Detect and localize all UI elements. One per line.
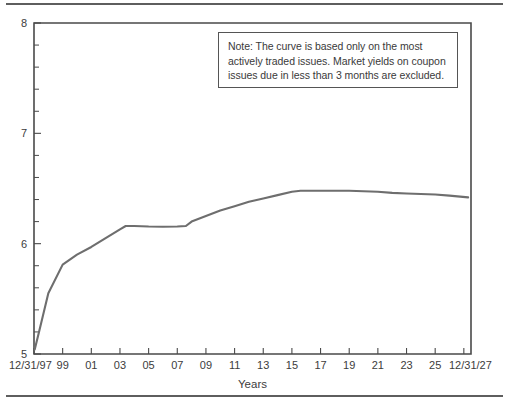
- x-tick-label: 01: [85, 359, 97, 371]
- chart-series: [35, 191, 468, 350]
- x-axis-title: Years: [238, 378, 267, 390]
- chart-note-text: Note: The curve is based only on the mos…: [228, 39, 449, 83]
- x-tick-label: 21: [372, 359, 384, 371]
- x-tick-label: 03: [114, 359, 126, 371]
- y-tick-label: 7: [21, 127, 27, 139]
- x-tick-label: 07: [171, 359, 183, 371]
- x-tick-label: 09: [200, 359, 212, 371]
- yield-curve-figure: 567812/31/979901030507091113151719212325…: [0, 0, 509, 410]
- x-tick-label: 19: [343, 359, 355, 371]
- x-tick-label: 13: [257, 359, 269, 371]
- x-tick-label: 12/31/27: [449, 359, 492, 371]
- y-tick-label: 8: [21, 17, 27, 29]
- x-tick-label: 11: [229, 359, 240, 371]
- x-tick-label: 05: [142, 359, 154, 371]
- x-tick-label: 99: [57, 359, 69, 371]
- x-tick-label: 23: [400, 359, 412, 371]
- yield-curve-line: [35, 191, 468, 350]
- x-tick-label: 15: [286, 359, 298, 371]
- x-tick-label: 17: [314, 359, 326, 371]
- chart-note-box: Note: The curve is based only on the mos…: [218, 32, 458, 88]
- y-tick-label: 6: [21, 238, 27, 250]
- x-tick-label: 12/31/97: [9, 359, 52, 371]
- x-tick-label: 25: [429, 359, 441, 371]
